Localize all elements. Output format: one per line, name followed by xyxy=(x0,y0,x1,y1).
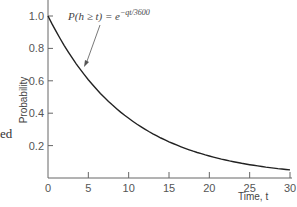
x-tick-label: 30 xyxy=(284,182,296,194)
annotation-arrow xyxy=(86,25,100,64)
x-tick-label: 20 xyxy=(203,182,215,194)
y-tick-label: 0.6 xyxy=(29,75,44,87)
y-tick-label: 0.4 xyxy=(29,107,44,119)
y-tick-label: 0.8 xyxy=(29,42,44,54)
x-tick-label: 5 xyxy=(85,182,91,194)
probability-chart: 0.20.40.60.81.0 051015202530 P(h ≥ t) = … xyxy=(0,0,297,207)
y-tick-label: 1.0 xyxy=(29,10,44,22)
x-axis-label: Time, t xyxy=(238,191,268,202)
y-ticks: 0.20.40.60.81.0 xyxy=(29,10,53,152)
probability-curve xyxy=(48,16,290,170)
x-tick-label: 0 xyxy=(45,182,51,194)
formula-annotation: P(h ≥ t) = e−qt/3600 xyxy=(67,8,150,23)
y-axis-label: Probability xyxy=(18,77,29,124)
y-tick-label: 0.2 xyxy=(29,140,44,152)
stray-text: ed xyxy=(0,126,13,141)
arrowhead-icon xyxy=(84,60,89,67)
x-tick-label: 15 xyxy=(163,182,175,194)
x-tick-label: 10 xyxy=(123,182,135,194)
